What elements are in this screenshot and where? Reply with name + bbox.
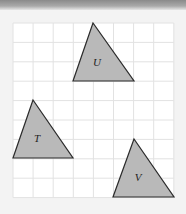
triangle-label: T xyxy=(34,132,41,144)
triangle-diagram: UTV xyxy=(0,0,186,214)
triangle-label: U xyxy=(93,56,102,68)
